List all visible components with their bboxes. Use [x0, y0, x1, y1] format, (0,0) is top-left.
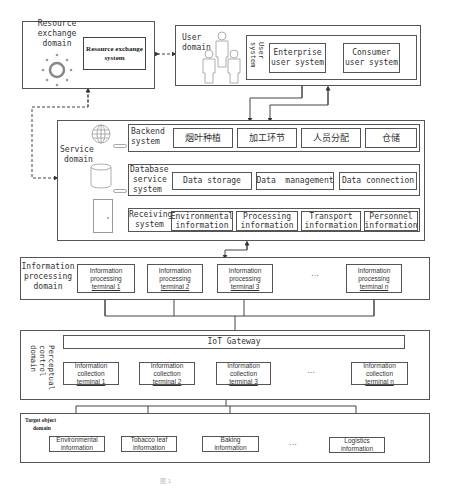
- database-service-system: Database service system Data storage Dat…: [128, 164, 420, 196]
- target-object-domain: Target object domain Environmental infor…: [20, 413, 430, 463]
- user-domain: User domain User system Enterprise user …: [175, 25, 421, 86]
- information-collection-terminal-1[interactable]: Information collection terminal 1: [63, 362, 119, 385]
- perceptual-control-domain: Perceptual control domain IoT Gateway In…: [20, 330, 430, 400]
- database-service-system-label: Database service system: [130, 165, 169, 195]
- target-environmental-information[interactable]: Environmental information: [49, 436, 105, 452]
- information-processing-terminal-2[interactable]: Information processing terminal 2: [147, 264, 203, 293]
- link-plug-icon: [113, 189, 127, 193]
- ellipsis: ···: [283, 441, 303, 449]
- iot-gateway[interactable]: IoT Gateway: [63, 335, 405, 349]
- consumer-user-system[interactable]: Consumer user system: [343, 43, 400, 73]
- user-system: User system Enterprise user system Consu…: [246, 35, 417, 80]
- receiving-system-label: Receiving system: [129, 210, 172, 230]
- target-baking-information[interactable]: Baking information: [202, 436, 259, 452]
- backend-item-processing[interactable]: 加工环节: [237, 128, 297, 148]
- target-tobacco-leaf-information[interactable]: Tobacco leaf information: [121, 436, 177, 452]
- information-collection-terminal-n[interactable]: Information collection terminal n: [351, 362, 408, 385]
- receiving-system: Receiving system Environmental informati…: [128, 208, 420, 232]
- receiving-environmental-information[interactable]: Environmental information: [171, 211, 233, 231]
- link-plug-icon: [113, 144, 127, 148]
- backend-item-warehousing[interactable]: 仓储: [365, 128, 417, 148]
- backend-item-tobacco-planting[interactable]: 烟叶种植: [173, 128, 233, 148]
- user-system-label: User system: [249, 42, 265, 79]
- backend-item-staffing[interactable]: 人员分配: [301, 128, 361, 148]
- target-object-domain-label: Target object domain: [25, 416, 56, 432]
- information-collection-terminal-2[interactable]: Information collection terminal 2: [139, 362, 195, 385]
- receiving-processing-information[interactable]: Processing information: [236, 211, 298, 231]
- enterprise-user-system[interactable]: Enterprise user system: [269, 43, 326, 73]
- information-processing-terminal-n[interactable]: Information processing terminal n: [346, 264, 402, 293]
- door-icon: [93, 199, 113, 233]
- data-management[interactable]: Data management: [256, 172, 334, 190]
- resource-exchange-domain-label: Resource exchange domain: [27, 19, 87, 49]
- target-logistics-information[interactable]: Logistics information: [329, 437, 385, 453]
- information-processing-domain: Information processing domain Informatio…: [20, 257, 430, 300]
- figure-caption: 图 1: [160, 477, 171, 485]
- information-collection-terminal-3[interactable]: Information collection terminal 3: [216, 362, 271, 385]
- data-storage[interactable]: Data storage: [172, 172, 252, 190]
- globe-icon: [90, 123, 112, 145]
- information-processing-terminal-3[interactable]: Information processing terminal 3: [217, 264, 273, 293]
- service-domain: Service domain Backend: [57, 120, 425, 241]
- hub-circle-icon: [37, 52, 77, 88]
- ellipsis: ···: [301, 369, 321, 377]
- information-processing-domain-label: Information processing domain: [23, 262, 73, 292]
- receiving-personnel-information[interactable]: Personnel information: [364, 211, 418, 231]
- service-domain-label: Service domain: [60, 145, 94, 165]
- receiving-transport-information[interactable]: Transport information: [301, 211, 361, 231]
- users-group-icon: [200, 30, 244, 84]
- data-connection[interactable]: Data connection: [339, 172, 417, 190]
- resource-exchange-system[interactable]: Resource exchange system: [83, 37, 146, 70]
- resource-exchange-domain: Resource exchange domain Resource exchan…: [22, 21, 155, 89]
- backend-system-label: Backend system: [131, 127, 165, 147]
- backend-system: Backend system 烟叶种植 加工环节 人员分配 仓储: [128, 124, 420, 152]
- database-icon: [90, 163, 112, 189]
- information-processing-terminal-1[interactable]: Information processing terminal 1: [77, 264, 135, 293]
- perceptual-control-domain-label: Perceptual control domain: [29, 345, 56, 399]
- ellipsis: ···: [305, 272, 325, 280]
